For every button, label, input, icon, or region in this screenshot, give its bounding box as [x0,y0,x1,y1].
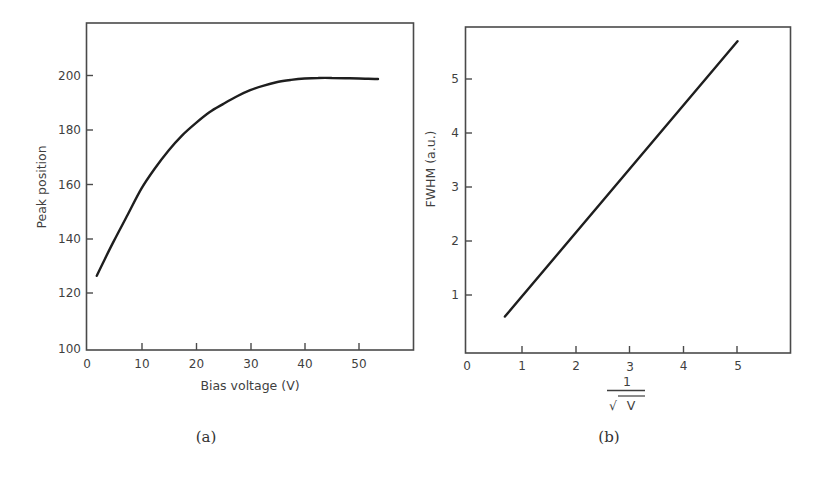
chart-b-x-ticks [522,346,737,353]
svg-text:3: 3 [626,360,634,374]
chart-b: 0 1 2 3 4 5 1 2 3 4 5 FWHM (a.u.) 1 √ V … [423,27,791,446]
fraction-numerator: 1 [623,374,631,389]
chart-a-y-axis-label: Peak position [34,145,49,228]
chart-a-caption: (a) [196,428,217,446]
chart-b-fwhm-line [505,41,738,316]
svg-text:40: 40 [297,357,312,371]
chart-a-frame [87,23,414,350]
svg-text:160: 160 [58,178,81,192]
chart-a-y-ticks [87,76,94,294]
svg-text:10: 10 [134,357,149,371]
svg-text:20: 20 [189,357,204,371]
svg-text:100: 100 [58,342,81,356]
chart-a-x-ticks [142,343,359,350]
svg-text:140: 140 [58,232,81,246]
svg-text:2: 2 [451,234,459,248]
svg-text:0: 0 [83,357,91,371]
svg-text:200: 200 [58,69,81,83]
svg-text:4: 4 [451,126,459,140]
chart-b-x-tick-labels: 0 1 2 3 4 5 [463,359,742,374]
svg-text:4: 4 [680,359,688,373]
chart-a-peak-position-curve [97,78,378,276]
svg-text:180: 180 [58,123,81,137]
svg-text:1: 1 [451,288,459,302]
svg-text:1: 1 [518,359,526,373]
figure: 0 10 20 30 40 50 100 120 140 160 180 200… [0,0,822,484]
svg-text:50: 50 [351,357,366,371]
chart-a-x-tick-labels: 0 10 20 30 40 50 [83,357,366,371]
chart-a-y-tick-labels: 100 120 140 160 180 200 [58,69,81,357]
fraction-denominator: V [627,398,636,413]
svg-text:5: 5 [734,359,742,373]
chart-b-y-ticks [466,79,473,295]
chart-b-y-axis-label: FWHM (a.u.) [423,131,438,208]
chart-b-x-axis-label: 1 √ V [607,374,645,413]
svg-text:0: 0 [463,359,471,373]
svg-text:2: 2 [572,359,580,373]
sqrt-radical-icon: √ [609,398,617,413]
chart-b-y-tick-labels: 1 2 3 4 5 [451,72,459,302]
svg-text:120: 120 [58,286,81,300]
chart-a: 0 10 20 30 40 50 100 120 140 160 180 200… [34,23,414,446]
svg-text:30: 30 [243,357,258,371]
chart-a-x-axis-label: Bias voltage (V) [200,378,299,393]
chart-b-caption: (b) [598,428,619,446]
svg-text:3: 3 [451,180,459,194]
svg-text:5: 5 [451,72,459,86]
